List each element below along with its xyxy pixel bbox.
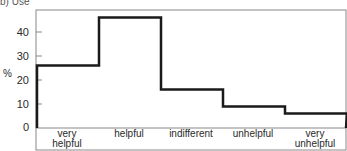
x-category-indifferent: indifferent	[160, 129, 222, 139]
x-category-very-unhelpful: veryunhelpful	[284, 129, 346, 149]
x-category-helpful: helpful	[98, 129, 160, 139]
x-category-unhelpful: unhelpful	[222, 129, 284, 139]
x-category-very-helpful: veryhelpful	[36, 129, 98, 149]
step-line	[37, 18, 347, 128]
